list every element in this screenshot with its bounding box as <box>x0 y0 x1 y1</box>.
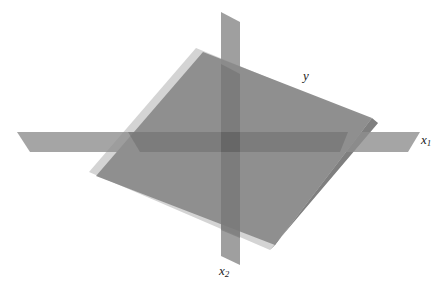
axis-label-x2: x2 <box>219 264 229 279</box>
axis-label-x2-subscript: 2 <box>225 269 230 279</box>
axis-label-x1: x1 <box>421 133 431 148</box>
axis-label-y: y <box>303 69 309 82</box>
planes-diagram-svg <box>0 0 447 290</box>
figure-container: y x1 x2 <box>0 0 447 290</box>
axis-label-x1-subscript: 1 <box>427 138 432 148</box>
triple-intersection-center <box>221 132 240 152</box>
